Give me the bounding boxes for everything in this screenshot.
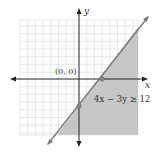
y-intercept-point bbox=[77, 104, 82, 109]
y-axis-label: y bbox=[83, 6, 90, 16]
test-point-label: (0, 0) bbox=[55, 67, 77, 76]
y-axis-down-arrow-icon bbox=[77, 141, 82, 147]
x-axis-label: x bbox=[145, 80, 150, 90]
x-axis-left-arrow-icon bbox=[10, 77, 16, 82]
inequality-graph: y x (0, 0) 4x − 3y ≥ 12 bbox=[0, 0, 160, 153]
inequality-label: 4x − 3y ≥ 12 bbox=[94, 94, 150, 104]
x-intercept-point bbox=[100, 77, 105, 82]
y-axis-up-arrow-icon bbox=[77, 8, 82, 14]
